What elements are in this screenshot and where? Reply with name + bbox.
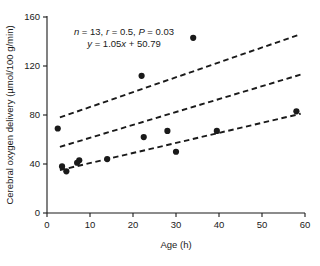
x-tick-label: 0: [44, 219, 49, 230]
y-tick-label: 40: [29, 158, 40, 169]
data-point: [293, 108, 299, 114]
data-point: [76, 157, 82, 163]
x-tick-label: 50: [257, 219, 268, 230]
data-point: [104, 156, 110, 162]
x-tick-label: 40: [214, 219, 225, 230]
x-tick-label: 30: [171, 219, 182, 230]
data-point: [173, 149, 179, 155]
x-tick-label: 10: [85, 219, 96, 230]
figure-container: 04080120160 0102030405060 Age (h) Cerebr…: [0, 0, 320, 266]
stats-annotation-line1: n = 13, r = 0.5, P = 0.03: [74, 26, 174, 37]
x-tick-label: 60: [300, 219, 311, 230]
data-point: [55, 125, 61, 131]
x-tick-label: 20: [128, 219, 139, 230]
y-axis-title: Cerebral oxygen delivery (µmol/100 g/min…: [4, 25, 15, 204]
data-point: [141, 134, 147, 140]
n-value: = 13,: [79, 26, 106, 37]
r-value: = 0.5,: [109, 26, 138, 37]
stats-annotation-line2: y = 1.05x + 50.79: [86, 38, 160, 49]
y-tick-label: 160: [24, 11, 40, 22]
data-point: [59, 163, 65, 169]
data-point: [164, 128, 170, 134]
data-point: [139, 73, 145, 79]
equation-intercept: + 50.79: [126, 38, 161, 49]
data-point: [63, 168, 69, 174]
data-point: [190, 35, 196, 41]
p-value: = 0.03: [145, 26, 174, 37]
data-point: [214, 128, 220, 134]
y-tick-label: 0: [35, 207, 40, 218]
equation-slope: = 1.05: [92, 38, 121, 49]
scatter-plot: 04080120160 0102030405060 Age (h) Cerebr…: [0, 0, 320, 266]
y-tick-label: 80: [29, 109, 40, 120]
y-tick-label: 120: [24, 60, 40, 71]
x-axis-title: Age (h): [160, 239, 191, 250]
